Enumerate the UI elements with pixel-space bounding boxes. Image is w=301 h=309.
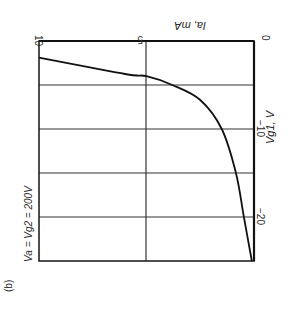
axis-label-ia: Ia, mA xyxy=(174,20,206,32)
tick-label-vg1-m20: −20 xyxy=(255,208,266,225)
grid-lines xyxy=(39,41,254,261)
figure-label: (b) xyxy=(3,280,14,292)
axis-label-vg1: Vg1, V xyxy=(264,109,276,144)
tick-label-ia-0: 0 xyxy=(260,35,271,41)
tick-label-ia-10: 10 xyxy=(33,35,44,47)
condition-annotation: Va = Vg2 = 200V xyxy=(23,185,34,262)
tick-label-ia-5: 5 xyxy=(137,34,143,45)
chart-figure: 10 5 0 −10 −20 Ia, mA Vg1, V Va = Vg2 = … xyxy=(0,0,301,309)
